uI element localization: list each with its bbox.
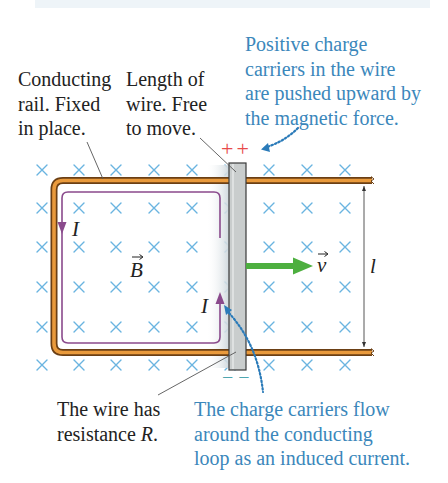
field-x-icon xyxy=(149,242,159,252)
field-x-icon xyxy=(37,282,47,292)
field-x-icon xyxy=(187,242,197,252)
wire-motion-shading xyxy=(206,165,229,368)
field-x-icon xyxy=(111,165,121,175)
magnetic-field-label: B xyxy=(130,255,143,283)
field-x-icon xyxy=(111,242,121,252)
field-x-icon xyxy=(37,360,47,370)
current-arrow-down-icon xyxy=(58,222,67,234)
field-x-icon xyxy=(74,165,84,175)
resistance-symbol: R xyxy=(140,423,153,445)
annotation-induced-current: The charge carriers flow around the cond… xyxy=(194,398,410,470)
annotation-line: The charge carriers flow xyxy=(194,398,390,421)
annotation-line: to move. xyxy=(126,117,196,139)
annotation-line: resistance R. xyxy=(57,423,158,445)
field-x-icon xyxy=(74,282,84,292)
field-x-icon xyxy=(264,282,274,292)
cropped-remnant-band xyxy=(35,0,430,8)
field-x-icon xyxy=(340,282,350,292)
velocity-label: v xyxy=(317,252,328,278)
annotation-wire-resistance: The wire has resistance R. xyxy=(57,398,161,445)
field-x-icon xyxy=(187,322,197,332)
field-x-icon xyxy=(74,203,84,213)
annotation-line: carriers in the wire xyxy=(245,58,396,80)
field-x-icon xyxy=(149,360,159,370)
annotation-line: are pushed upward by xyxy=(245,82,421,105)
field-x-icon xyxy=(340,165,350,175)
current-label-lower: I xyxy=(200,294,209,318)
field-x-icon xyxy=(149,165,159,175)
field-x-icon xyxy=(340,322,350,332)
moving-wire-induction-diagram: ++ − − B v I I l Conducting rail. Fixed … xyxy=(0,0,448,483)
field-x-icon xyxy=(187,282,197,292)
field-x-icon xyxy=(264,165,274,175)
annotation-conducting-rail: Conducting rail. Fixed in place. xyxy=(18,68,111,140)
field-x-icon xyxy=(302,282,312,292)
diagram-canvas: ++ − − B v I I l Conducting rail. Fixed … xyxy=(0,0,448,483)
field-x-icon xyxy=(187,360,197,370)
annotation-line: Positive charge xyxy=(245,33,368,56)
annotation-text: resistance xyxy=(57,423,141,445)
velocity-arrow xyxy=(246,258,313,275)
symbol-v: v xyxy=(317,253,327,277)
leader-line-rail xyxy=(87,142,103,179)
field-x-icon xyxy=(340,203,350,213)
annotation-text: . xyxy=(153,423,158,445)
annotation-line: around the conducting xyxy=(194,423,373,446)
field-x-icon xyxy=(264,322,274,332)
field-x-icon xyxy=(74,360,84,370)
length-label: l xyxy=(370,254,376,278)
annotation-moving-wire: Length of wire. Free to move. xyxy=(126,68,207,139)
dotted-arrowhead-icon xyxy=(261,143,270,152)
annotation-line: in place. xyxy=(18,117,86,140)
field-x-icon xyxy=(74,242,84,252)
field-x-icon xyxy=(149,322,159,332)
field-x-icon xyxy=(111,282,121,292)
field-x-icon xyxy=(37,203,47,213)
field-x-icon xyxy=(340,242,350,252)
movable-wire xyxy=(229,163,246,370)
field-x-icon xyxy=(111,360,121,370)
annotation-line: loop as an induced current. xyxy=(194,447,410,470)
field-x-icon xyxy=(264,242,274,252)
field-x-icon xyxy=(302,165,312,175)
field-x-icon xyxy=(187,165,197,175)
negative-charges: − − xyxy=(222,366,250,388)
annotation-positive-carriers: Positive charge carriers in the wire are… xyxy=(245,33,421,130)
field-x-icon xyxy=(302,242,312,252)
dotted-arrow-positive-carriers xyxy=(261,128,298,152)
field-x-icon xyxy=(302,203,312,213)
field-x-icon xyxy=(302,322,312,332)
field-x-icon xyxy=(302,360,312,370)
field-x-icon xyxy=(74,322,84,332)
field-x-icon xyxy=(111,203,121,213)
annotation-line: The wire has xyxy=(57,398,161,420)
annotation-line: the magnetic force. xyxy=(245,107,399,130)
field-x-icon xyxy=(111,322,121,332)
field-x-icon xyxy=(37,165,47,175)
field-x-icon xyxy=(149,282,159,292)
annotation-line: Conducting xyxy=(18,68,111,91)
symbol-B: B xyxy=(130,258,143,282)
annotation-line: wire. Free xyxy=(126,93,207,115)
field-x-icon xyxy=(264,360,274,370)
field-x-icon xyxy=(37,322,47,332)
annotation-line: rail. Fixed xyxy=(18,93,100,115)
field-x-icon xyxy=(37,242,47,252)
annotation-line: Length of xyxy=(126,68,205,91)
field-x-icon xyxy=(340,360,350,370)
field-x-icon xyxy=(149,203,159,213)
positive-charges: ++ xyxy=(221,136,252,161)
field-x-icon xyxy=(264,203,274,213)
field-x-icon xyxy=(187,203,197,213)
current-label-upper: I xyxy=(71,217,80,241)
